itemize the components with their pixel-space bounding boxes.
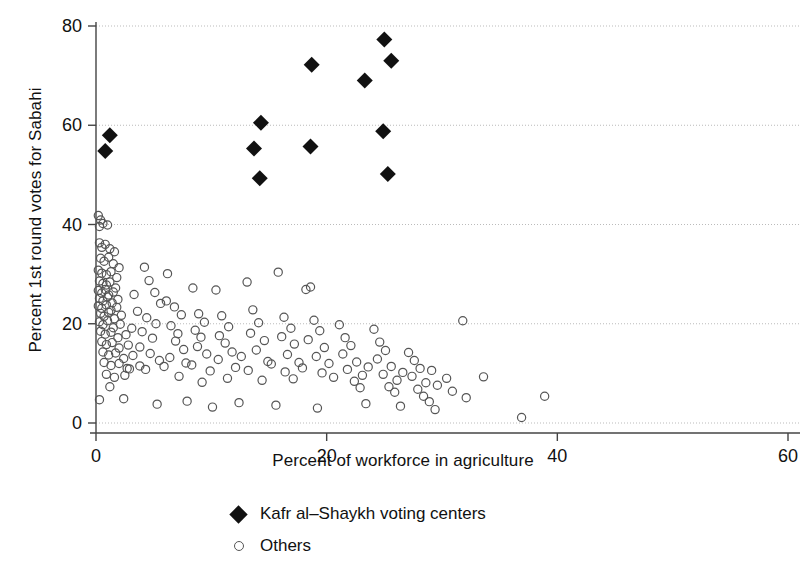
data-point-other [163, 270, 171, 278]
data-point-other [280, 313, 288, 321]
data-point-other [335, 321, 343, 329]
data-point-other [151, 288, 159, 296]
data-point-other [443, 374, 451, 382]
data-point-other [391, 388, 399, 396]
data-point-other [244, 366, 252, 374]
data-point-other [255, 319, 263, 327]
data-point-other [362, 400, 370, 408]
data-point-other [218, 312, 226, 320]
series-kafr-al-shaykh [97, 31, 399, 186]
y-axis-title: Percent 1st round votes for Sabahi [26, 0, 50, 440]
scatter-plot-figure: 0204060800204060 Percent of workforce in… [0, 0, 806, 575]
data-point-other [130, 290, 138, 298]
data-point-other [290, 340, 298, 348]
data-point-other [416, 364, 424, 372]
data-point-other [198, 378, 206, 386]
data-point-other [171, 337, 179, 345]
data-point-other [425, 398, 433, 406]
data-point-other [339, 350, 347, 358]
data-point-other [166, 353, 174, 361]
data-point-other [281, 368, 289, 376]
data-point-other [200, 318, 208, 326]
data-point-other [228, 348, 236, 356]
data-point-kafr-al-shaykh [357, 73, 373, 89]
data-point-other [221, 339, 229, 347]
data-point-other [140, 263, 148, 271]
data-point-other [304, 336, 312, 344]
data-point-other [260, 337, 268, 345]
data-point-other [381, 346, 389, 354]
data-point-other [393, 376, 401, 384]
data-point-other [517, 413, 525, 421]
data-point-other [117, 311, 125, 319]
data-point-kafr-al-shaykh [375, 123, 391, 139]
data-point-other [124, 341, 132, 349]
x-axis-title: Percent of workforce in agriculture [0, 451, 806, 471]
data-point-other [370, 325, 378, 333]
data-point-other [396, 402, 404, 410]
data-point-other [183, 397, 191, 405]
data-point-other [353, 358, 361, 366]
data-point-other [313, 404, 321, 412]
y-tick-label: 60 [62, 115, 82, 135]
data-point-other [203, 350, 211, 358]
data-point-other [287, 324, 295, 332]
data-point-other [208, 403, 216, 411]
data-point-other [129, 351, 137, 359]
data-point-other [246, 329, 254, 337]
chart-legend: Kafr al–Shaykh voting centers Others [0, 498, 806, 562]
data-point-other [289, 375, 297, 383]
data-point-other [143, 314, 151, 322]
y-tick-label: 40 [62, 215, 82, 235]
data-point-other [358, 371, 366, 379]
data-point-other [180, 345, 188, 353]
data-point-other [408, 372, 416, 380]
data-point-other [212, 286, 220, 294]
data-point-kafr-al-shaykh [102, 127, 118, 143]
data-point-other [189, 284, 197, 292]
data-point-other [102, 370, 110, 378]
data-point-other [329, 373, 337, 381]
data-point-other [120, 354, 128, 362]
data-point-other [109, 260, 117, 268]
data-point-other [343, 365, 351, 373]
data-point-other [310, 316, 318, 324]
data-point-kafr-al-shaykh [97, 143, 113, 159]
data-point-other [320, 343, 328, 351]
data-point-other [120, 395, 128, 403]
data-point-other [138, 328, 146, 336]
data-point-other [193, 342, 201, 350]
data-point-other [258, 376, 266, 384]
open-circle-icon [228, 541, 246, 551]
data-point-other [206, 367, 214, 375]
data-point-other [252, 346, 260, 354]
y-tick-label: 0 [72, 413, 82, 433]
filled-diamond-icon [228, 508, 246, 521]
data-point-other [148, 334, 156, 342]
data-point-other [106, 383, 114, 391]
data-point-other [431, 406, 439, 414]
data-point-other [364, 363, 372, 371]
data-point-other [274, 268, 282, 276]
data-point-other [170, 303, 178, 311]
legend-label-kafr-al-shaykh: Kafr al–Shaykh voting centers [260, 504, 486, 524]
data-point-kafr-al-shaykh [253, 115, 269, 131]
data-point-other [479, 373, 487, 381]
data-point-kafr-al-shaykh [383, 53, 399, 69]
data-point-other [272, 401, 280, 409]
data-point-kafr-al-shaykh [304, 57, 320, 73]
legend-item-others: Others [0, 530, 806, 562]
series-others [94, 211, 549, 421]
data-point-other [177, 311, 185, 319]
data-point-other [214, 355, 222, 363]
data-point-other [223, 374, 231, 382]
data-point-other [167, 322, 175, 330]
data-point-other [231, 363, 239, 371]
plot-canvas: 0204060800204060 [0, 0, 806, 575]
data-point-other [191, 326, 199, 334]
legend-item-kafr-al-shaykh: Kafr al–Shaykh voting centers [0, 498, 806, 530]
data-point-other [356, 384, 364, 392]
data-point-other [316, 327, 324, 335]
data-point-other [410, 356, 418, 364]
legend-label-others: Others [260, 536, 311, 556]
